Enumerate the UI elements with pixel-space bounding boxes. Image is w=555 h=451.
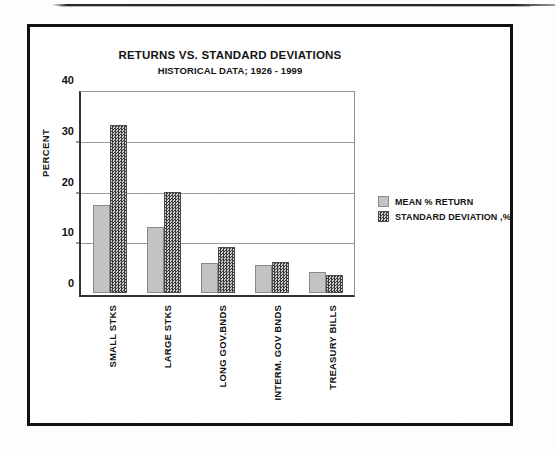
x-axis-category-label: LARGE STKS	[162, 305, 173, 368]
bar-standard-deviation	[326, 275, 343, 294]
y-axis-title: PERCENT	[40, 129, 51, 177]
bar-group	[147, 93, 181, 293]
bar-group	[201, 93, 235, 293]
plot-area: 010203040	[79, 91, 355, 297]
x-axis-category-label: TREASURY BILLS	[327, 305, 338, 390]
x-axis-label-slot: TREASURY BILLS	[300, 299, 355, 419]
gridline	[81, 91, 354, 92]
legend-entry: STANDARD DEVIATION ,%	[378, 210, 528, 223]
legend-entry-label: MEAN % RETURN	[395, 197, 473, 207]
bar-group	[309, 93, 343, 293]
y-axis-tick-mark	[76, 243, 81, 244]
bar-standard-deviation	[164, 192, 181, 293]
y-axis-tick-label: 10	[62, 226, 74, 238]
dark-checkered-swatch	[378, 211, 389, 222]
x-axis-label-slot: LONG GOV.BNDS	[189, 299, 244, 419]
y-axis-tick-label: 40	[62, 74, 74, 86]
y-axis-tick-label: 20	[62, 176, 74, 188]
chart-legend: MEAN % RETURNSTANDARD DEVIATION ,%	[378, 195, 528, 225]
bar-mean-return	[201, 263, 218, 293]
bar-mean-return	[147, 227, 164, 294]
bar-standard-deviation	[272, 262, 289, 293]
x-axis-category-label: LONG GOV.BNDS	[217, 305, 228, 387]
chart-figure-frame: RETURNS VS. STANDARD DEVIATIONS HISTORIC…	[27, 24, 513, 426]
chart-title: RETURNS VS. STANDARD DEVIATIONS	[30, 49, 510, 61]
x-axis-label-slot: SMALL STKS	[79, 299, 134, 419]
bar-group	[255, 93, 289, 293]
y-axis-tick-label: 0	[68, 277, 74, 289]
x-axis-label-slot: LARGE STKS	[134, 299, 189, 419]
chart-subtitle: HISTORICAL DATA; 1926 - 1999	[30, 65, 510, 76]
x-axis-category-label: INTERM. GOV BNDS	[272, 305, 283, 401]
bar-mean-return	[309, 272, 326, 293]
bar-standard-deviation	[110, 125, 127, 293]
bar-mean-return	[93, 205, 110, 293]
bar-standard-deviation	[218, 247, 235, 294]
y-axis-tick-mark	[76, 192, 81, 193]
x-axis-category-labels: SMALL STKSLARGE STKSLONG GOV.BNDSINTERM.…	[79, 299, 355, 419]
scan-artifact-line-secondary	[60, 6, 530, 7]
y-axis-tick-mark	[76, 141, 81, 142]
bar-mean-return	[255, 265, 272, 294]
legend-entry-label: STANDARD DEVIATION ,%	[395, 212, 511, 222]
x-axis-label-slot: INTERM. GOV BNDS	[245, 299, 300, 419]
legend-entry: MEAN % RETURN	[378, 195, 528, 208]
bars-layer	[83, 93, 353, 293]
x-axis-category-label: SMALL STKS	[107, 305, 118, 368]
bar-group	[93, 93, 127, 293]
light-gray-solid-swatch	[378, 196, 389, 207]
y-axis-tick-label: 30	[62, 125, 74, 137]
